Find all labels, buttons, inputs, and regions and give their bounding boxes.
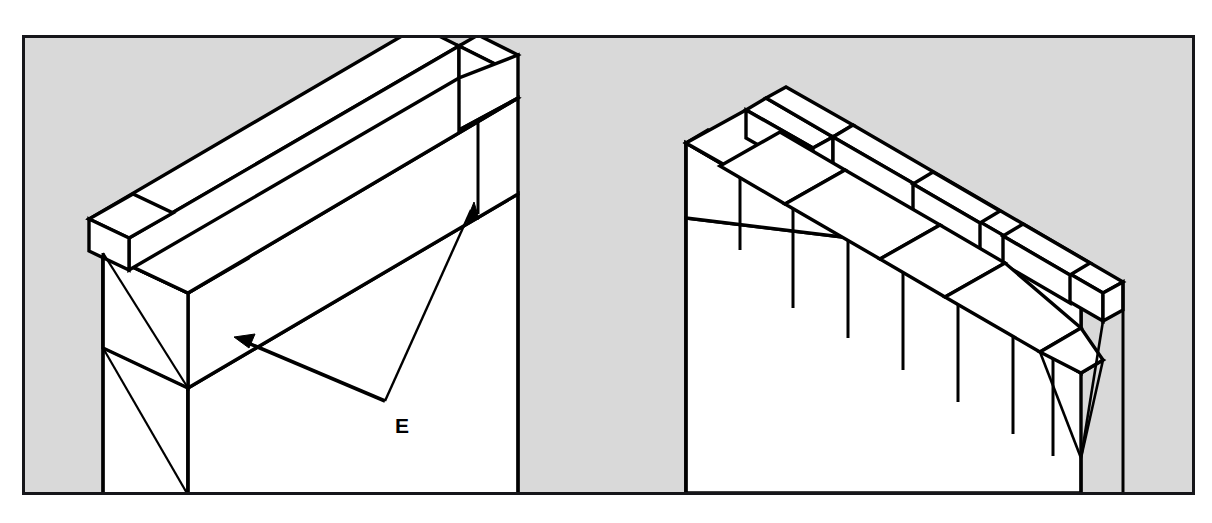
left-corner-detail: E [25,38,585,492]
callout-label-e: E [395,414,409,437]
figure-root: E [0,0,1212,523]
right-corner-detail [633,38,1193,492]
corner-line-r2 [1081,360,1103,458]
figure-frame: E [22,35,1195,495]
